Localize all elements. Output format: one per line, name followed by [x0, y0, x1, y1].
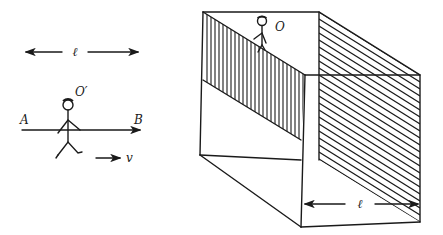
box-front-bottom-edge: [301, 222, 420, 227]
box-bottom-diagonal: [200, 155, 301, 227]
left-figure: ℓ A B O′ v: [19, 45, 143, 165]
point-a-label: A: [19, 113, 29, 127]
velocity-label: v: [126, 151, 133, 165]
band-lower-edge: [203, 80, 301, 140]
right-figure-box: ℓ O: [200, 0, 420, 235]
length-label: ℓ: [73, 45, 78, 59]
box-back-left-edge: [200, 12, 203, 155]
observer-o-prime-label: O′: [75, 85, 88, 99]
box-back-bottom-edge: [200, 155, 301, 160]
vertical-hatching: [207, 0, 303, 235]
observer-o-label: O: [275, 20, 285, 34]
observer-o-stick-figure: [254, 17, 267, 53]
point-b-label: B: [133, 113, 143, 127]
box-length-label: ℓ: [358, 197, 363, 211]
observer-o-prime-stick-figure: [56, 99, 82, 158]
relativity-diagram: ℓ A B O′ v: [0, 0, 443, 235]
